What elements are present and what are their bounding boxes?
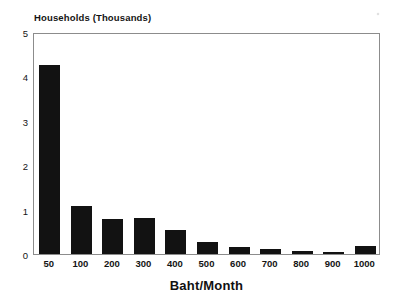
y-axis-tick-label: 5 bbox=[0, 28, 28, 39]
x-axis-tick-label: 50 bbox=[43, 258, 54, 269]
y-axis-tick-label: 1 bbox=[0, 205, 28, 216]
bar bbox=[323, 252, 344, 254]
bar bbox=[71, 206, 92, 254]
x-axis-tick-label: 500 bbox=[199, 258, 215, 269]
bar bbox=[102, 219, 123, 254]
x-axis-tick-label: 800 bbox=[293, 258, 309, 269]
bar bbox=[134, 218, 155, 254]
x-axis-tick-label: 900 bbox=[325, 258, 341, 269]
x-axis-tick-label: 1000 bbox=[354, 258, 375, 269]
x-axis-tick-label: 400 bbox=[167, 258, 183, 269]
scan-artifact-mark bbox=[376, 12, 380, 16]
x-axis-tick-label: 700 bbox=[262, 258, 278, 269]
y-axis-tick-label: 2 bbox=[0, 161, 28, 172]
bar bbox=[229, 247, 250, 254]
bar bbox=[39, 65, 60, 254]
bar bbox=[165, 230, 186, 254]
x-axis-tick-label: 200 bbox=[104, 258, 120, 269]
bar bbox=[355, 246, 376, 254]
plot-area bbox=[33, 33, 380, 255]
bar bbox=[292, 251, 313, 254]
x-axis-tick-label: 300 bbox=[135, 258, 151, 269]
bars-layer bbox=[34, 34, 379, 254]
bar bbox=[197, 242, 218, 254]
x-axis-tick-label: 600 bbox=[230, 258, 246, 269]
y-axis-title: Households (Thousands) bbox=[34, 12, 151, 23]
x-axis-tick-label: 100 bbox=[72, 258, 88, 269]
bar bbox=[260, 249, 281, 254]
x-axis-title: Baht/Month bbox=[33, 278, 380, 293]
y-axis-tick-label: 4 bbox=[0, 72, 28, 83]
y-axis-tick-label: 0 bbox=[0, 250, 28, 261]
bar-chart-figure: Households (Thousands) 012345 5010020030… bbox=[0, 0, 409, 307]
y-axis-tick-label: 3 bbox=[0, 116, 28, 127]
